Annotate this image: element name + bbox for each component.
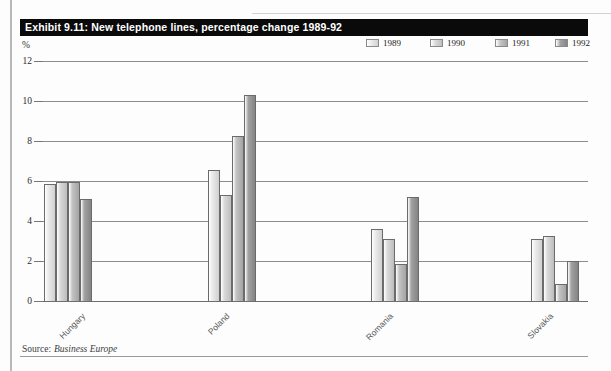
x-axis-label-slovakia: Slovakia — [525, 311, 555, 341]
y-tick-0 — [34, 301, 43, 302]
bar-poland-1991 — [232, 136, 244, 301]
y-tick-2 — [34, 261, 43, 262]
legend-swatch-1990 — [430, 39, 443, 47]
scan-artifact-line — [252, 13, 611, 14]
exhibit-title: Exhibit 9.11: New telephone lines, perce… — [20, 21, 342, 33]
y-tick-12 — [34, 61, 43, 62]
bar-poland-1992 — [244, 95, 256, 301]
source-note: Source:Business Europe — [22, 344, 117, 354]
y-tick-10 — [34, 101, 43, 102]
x-axis-label-hungary: Hungary — [57, 311, 87, 341]
legend-label-1989: 1989 — [383, 38, 401, 48]
exhibit-title-bar: Exhibit 9.11: New telephone lines, perce… — [20, 19, 588, 36]
legend-swatch-1991 — [495, 39, 508, 47]
legend-entry-1990: 1990 — [430, 37, 465, 49]
bar-slovakia-1989 — [531, 239, 543, 301]
bar-hungary-1990 — [56, 182, 68, 301]
y-tick-6 — [34, 181, 43, 182]
source-rule — [20, 356, 588, 357]
bar-romania-1992 — [407, 197, 419, 301]
legend-swatch-1989 — [366, 39, 379, 47]
bar-hungary-1992 — [80, 199, 92, 301]
legend-label-1990: 1990 — [447, 38, 465, 48]
gridline-10 — [43, 101, 588, 102]
bar-poland-1990 — [220, 195, 232, 301]
bar-romania-1989 — [371, 229, 383, 301]
legend-entry-1991: 1991 — [495, 37, 530, 49]
gridline-2 — [43, 261, 588, 262]
legend-entry-1992: 1992 — [555, 37, 590, 49]
y-tick-label-0: 0 — [12, 296, 32, 306]
bar-slovakia-1991 — [555, 284, 567, 301]
bar-hungary-1991 — [68, 182, 80, 301]
gridline-0 — [43, 301, 588, 302]
bar-slovakia-1992 — [567, 261, 579, 301]
x-axis-label-poland: Poland — [205, 311, 231, 337]
bar-romania-1990 — [383, 239, 395, 301]
bar-romania-1991 — [395, 264, 407, 301]
y-tick-label-2: 2 — [12, 256, 32, 266]
plot-area — [43, 61, 588, 301]
gridline-6 — [43, 181, 588, 182]
source-name: Business Europe — [54, 344, 117, 354]
legend-label-1992: 1992 — [572, 38, 590, 48]
bar-slovakia-1990 — [543, 236, 555, 301]
y-tick-label-6: 6 — [12, 176, 32, 186]
y-tick-8 — [34, 141, 43, 142]
legend-entry-1989: 1989 — [366, 37, 401, 49]
y-tick-label-12: 12 — [12, 56, 32, 66]
y-tick-label-10: 10 — [12, 96, 32, 106]
y-tick-4 — [34, 221, 43, 222]
y-tick-label-4: 4 — [12, 216, 32, 226]
page: Exhibit 9.11: New telephone lines, perce… — [0, 0, 611, 371]
bar-poland-1989 — [208, 170, 220, 301]
y-axis-unit-label: % — [22, 40, 38, 50]
source-prefix: Source: — [22, 344, 51, 354]
bar-hungary-1989 — [44, 184, 56, 301]
legend-label-1991: 1991 — [512, 38, 530, 48]
y-tick-label-8: 8 — [12, 136, 32, 146]
gridline-12 — [43, 61, 588, 62]
gridline-4 — [43, 221, 588, 222]
legend-swatch-1992 — [555, 39, 568, 47]
x-axis-label-romania: Romania — [364, 311, 395, 342]
gridline-8 — [43, 141, 588, 142]
